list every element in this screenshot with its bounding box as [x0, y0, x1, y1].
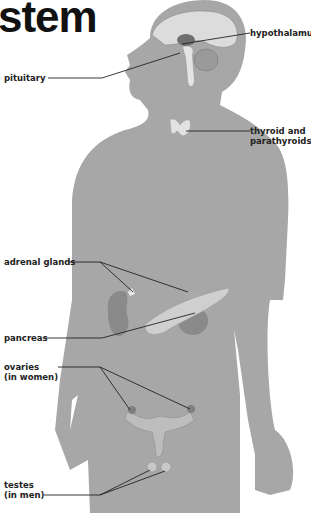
label-pancreas: pancreas [4, 333, 48, 343]
label-thyroid-line2: parathyroids [250, 136, 311, 146]
right-testis [161, 462, 171, 472]
label-hypothalamus: hypothalamus [250, 28, 311, 38]
left-ovary [128, 406, 136, 414]
label-ovaries-line1: ovaries [4, 362, 39, 372]
cerebellum [194, 49, 218, 71]
label-pituitary: pituitary [4, 73, 46, 83]
label-thyroid-line1: thyroid and [250, 126, 306, 136]
label-testes-line2: (in men) [4, 490, 44, 500]
label-testes-line1: testes [4, 480, 34, 490]
human-silhouette [55, 0, 293, 513]
hypothalamus-organ [177, 34, 195, 46]
label-ovaries-line2: (in women) [4, 372, 58, 382]
label-adrenal-glands: adrenal glands [4, 257, 75, 267]
right-ovary [187, 405, 195, 413]
